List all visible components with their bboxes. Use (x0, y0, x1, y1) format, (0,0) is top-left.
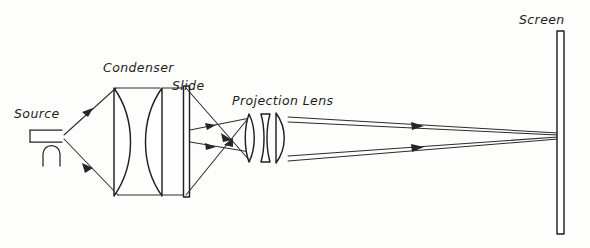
ray-diagram-canvas: Source Condenser Slide Projection Lens S… (0, 0, 590, 248)
label-screen: Screen (519, 12, 565, 27)
optics-diagram: Source Condenser Slide Projection Lens S… (0, 0, 590, 248)
projection-lens-assembly (245, 113, 284, 163)
condenser-lens-first (114, 88, 131, 196)
label-slide: Slide (172, 78, 205, 93)
rays-source-to-condenser (64, 88, 118, 195)
screen-plate (557, 31, 564, 234)
label-condenser: Condenser (103, 60, 174, 75)
label-projection-lens: Projection Lens (232, 93, 333, 108)
source-symbol (30, 130, 62, 166)
rays-projection-lens-to-screen (288, 117, 558, 161)
label-source: Source (14, 106, 60, 121)
condenser-lens-second (146, 88, 163, 196)
slide-plate (184, 86, 190, 197)
